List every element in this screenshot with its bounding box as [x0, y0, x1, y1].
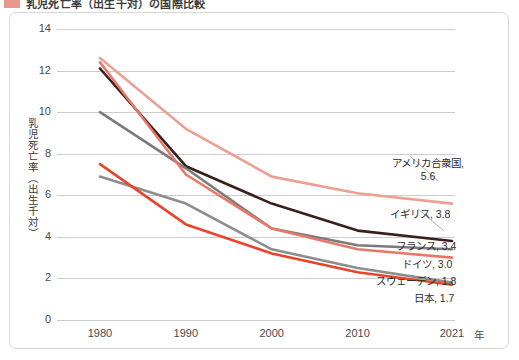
series-label-france: フランス, 3.4 [396, 238, 456, 253]
series-label-uk: イギリス, 3.8 [390, 206, 450, 221]
line-chart: 乳児死亡率（出生千対） 02468101214 1980199020002010… [0, 0, 519, 360]
series-label-sweden: スウェーデン, 1.8 [376, 273, 456, 288]
series-label-germany: ドイツ, 3.0 [402, 256, 452, 271]
series-label-usa: アメリカ合衆国, 5.6 [385, 157, 471, 183]
series-label-japan: 日本, 1.7 [414, 290, 454, 305]
